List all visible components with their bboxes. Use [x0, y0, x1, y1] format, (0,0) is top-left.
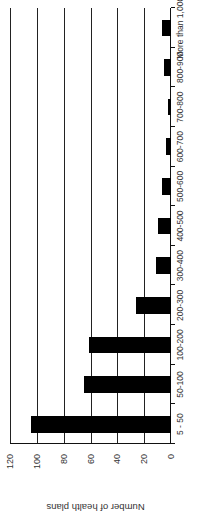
bar: [162, 20, 171, 37]
x-tick-label: 400-500: [175, 210, 185, 241]
gridline: [64, 8, 65, 444]
y-axis: [10, 443, 171, 444]
x-tick: [171, 166, 175, 167]
bar: [156, 257, 171, 274]
x-tick: [171, 324, 175, 325]
x-tick: [171, 245, 175, 246]
y-tick-label: 40: [112, 454, 122, 464]
gridline: [37, 8, 38, 444]
x-tick-label: 5 - 50: [175, 413, 185, 435]
y-tick-label: 20: [139, 454, 149, 464]
x-tick: [171, 86, 175, 87]
x-tick: [171, 284, 175, 285]
x-tick: [171, 205, 175, 206]
y-tick-label: 0: [166, 454, 176, 459]
bar: [168, 99, 171, 116]
x-tick-label: 600-700: [175, 131, 185, 162]
x-tick: [171, 443, 175, 444]
bar: [164, 59, 171, 76]
x-tick-label: 100-200: [175, 329, 185, 360]
y-tick-label: 60: [86, 454, 96, 464]
x-tick-label: 300-400: [175, 250, 185, 281]
x-tick-label: More than 1,000: [175, 0, 185, 59]
y-tick-label: 80: [59, 454, 69, 464]
y-tick-label: 100: [32, 454, 42, 469]
bar: [136, 297, 171, 314]
bar: [84, 376, 171, 393]
x-tick-label: 200-300: [175, 290, 185, 321]
x-tick: [171, 364, 175, 365]
bar: [31, 416, 171, 433]
bar: [166, 138, 171, 155]
x-tick-label: 50-100: [175, 371, 185, 397]
x-tick-label: 700-800: [175, 91, 185, 122]
y-tick-label: 120: [5, 454, 15, 469]
bar: [89, 337, 171, 354]
x-tick: [171, 126, 175, 127]
y-axis-title: Number of health plans: [31, 502, 161, 513]
plot-area: 0204060801001205 - 5050-100100-200200-30…: [10, 8, 171, 444]
rotated-chart: Number of health plans 0204060801001205 …: [0, 0, 202, 513]
gridline: [10, 8, 11, 444]
bar: [158, 218, 171, 235]
x-tick-label: 500-600: [175, 171, 185, 202]
x-tick: [171, 403, 175, 404]
bar: [162, 178, 171, 195]
